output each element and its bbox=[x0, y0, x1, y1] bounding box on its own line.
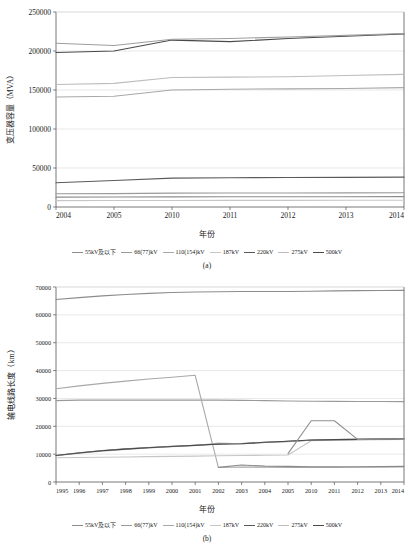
legend-item: 66(77)kV bbox=[121, 521, 157, 529]
plot-area-b: 输电线路长度（km） 01000020000300004000050000600… bbox=[0, 275, 414, 515]
legend-item: 187kV bbox=[210, 521, 239, 529]
legend-item: 275kV bbox=[278, 248, 307, 256]
svg-text:0: 0 bbox=[47, 203, 51, 212]
svg-text:60000: 60000 bbox=[36, 311, 51, 318]
svg-text:2005: 2005 bbox=[107, 211, 122, 220]
legend-line-icon bbox=[210, 252, 221, 253]
caption-a: (a) bbox=[0, 261, 414, 270]
legend-line-icon bbox=[72, 252, 83, 253]
figure-panel-a: 变压器容量（MVA） 05000010000015000020000025000… bbox=[0, 0, 414, 275]
legend-item: 500kV bbox=[313, 248, 342, 256]
legend-label: 275kV bbox=[291, 521, 307, 529]
legend-label: 66(77)kV bbox=[134, 521, 157, 529]
legend-label: 500kV bbox=[326, 521, 342, 529]
legend-line-icon bbox=[244, 252, 255, 253]
legend-label: 110(154)kV bbox=[176, 248, 205, 256]
legend-item: 110(154)kV bbox=[163, 248, 205, 256]
svg-text:2012: 2012 bbox=[281, 211, 296, 220]
svg-text:2002: 2002 bbox=[212, 487, 224, 494]
svg-text:100000: 100000 bbox=[29, 125, 52, 134]
svg-text:50000: 50000 bbox=[36, 339, 51, 346]
svg-text:2013: 2013 bbox=[375, 487, 387, 494]
svg-text:250000: 250000 bbox=[29, 8, 52, 17]
legend-line-icon bbox=[121, 252, 132, 253]
x-axis-label-b: 年份 bbox=[0, 503, 414, 514]
legend-label: 187kV bbox=[223, 248, 239, 256]
svg-text:2013: 2013 bbox=[339, 211, 354, 220]
svg-text:1996: 1996 bbox=[73, 487, 85, 494]
caption-b: (b) bbox=[0, 534, 414, 543]
svg-text:50000: 50000 bbox=[32, 164, 51, 173]
svg-text:2005: 2005 bbox=[282, 487, 294, 494]
legend-label: 55kV及以下 bbox=[85, 248, 116, 256]
plot-area-a: 变压器容量（MVA） 05000010000015000020000025000… bbox=[0, 0, 414, 240]
svg-text:2011: 2011 bbox=[328, 487, 340, 494]
legend-label: 220kV bbox=[257, 521, 273, 529]
legend-line-icon bbox=[244, 525, 255, 526]
legend-item: 110(154)kV bbox=[163, 521, 205, 529]
svg-text:2000: 2000 bbox=[166, 487, 178, 494]
legend-line-icon bbox=[72, 525, 83, 526]
svg-text:2014: 2014 bbox=[389, 211, 404, 220]
chart-svg-a: 0500001000001500002000002500002004200520… bbox=[0, 0, 414, 244]
figure-panel-b: 输电线路长度（km） 01000020000300004000050000600… bbox=[0, 275, 414, 550]
svg-text:2003: 2003 bbox=[235, 487, 247, 494]
legend-label: 66(77)kV bbox=[134, 248, 157, 256]
legend-item: 66(77)kV bbox=[121, 248, 157, 256]
legend-label: 55kV及以下 bbox=[85, 521, 116, 529]
svg-text:2011: 2011 bbox=[223, 211, 238, 220]
svg-text:2010: 2010 bbox=[165, 211, 180, 220]
legend-item: 55kV及以下 bbox=[72, 248, 116, 256]
svg-text:1998: 1998 bbox=[119, 487, 131, 494]
legend-line-icon bbox=[121, 525, 132, 526]
legend-item: 220kV bbox=[244, 521, 273, 529]
svg-text:2004: 2004 bbox=[56, 211, 71, 220]
svg-text:1999: 1999 bbox=[143, 487, 155, 494]
svg-text:200000: 200000 bbox=[29, 47, 52, 56]
svg-text:2014: 2014 bbox=[392, 487, 404, 494]
svg-text:20000: 20000 bbox=[36, 423, 51, 430]
legend-b: 55kV及以下66(77)kV110(154)kV187kV220kV275kV… bbox=[0, 521, 414, 529]
legend-item: 500kV bbox=[313, 521, 342, 529]
svg-text:30000: 30000 bbox=[36, 395, 51, 402]
legend-a: 55kV及以下66(77)kV110(154)kV187kV220kV275kV… bbox=[0, 248, 414, 256]
legend-line-icon bbox=[163, 525, 174, 526]
legend-line-icon bbox=[313, 525, 324, 526]
svg-text:1995: 1995 bbox=[56, 487, 68, 494]
legend-label: 110(154)kV bbox=[176, 521, 205, 529]
legend-item: 55kV及以下 bbox=[72, 521, 116, 529]
x-axis-label-a: 年份 bbox=[0, 228, 414, 239]
svg-text:70000: 70000 bbox=[36, 284, 51, 291]
svg-text:10000: 10000 bbox=[36, 451, 51, 458]
svg-text:40000: 40000 bbox=[36, 367, 51, 374]
legend-line-icon bbox=[278, 525, 289, 526]
legend-label: 275kV bbox=[291, 248, 307, 256]
legend-item: 187kV bbox=[210, 248, 239, 256]
svg-text:2004: 2004 bbox=[259, 487, 271, 494]
svg-text:2001: 2001 bbox=[189, 487, 201, 494]
chart-svg-b: 0100002000030000400005000060000700001995… bbox=[0, 275, 414, 519]
legend-item: 275kV bbox=[278, 521, 307, 529]
svg-text:2010: 2010 bbox=[305, 487, 317, 494]
svg-text:2012: 2012 bbox=[351, 487, 363, 494]
legend-line-icon bbox=[313, 252, 324, 253]
legend-line-icon bbox=[210, 525, 221, 526]
legend-line-icon bbox=[278, 252, 289, 253]
svg-text:1997: 1997 bbox=[96, 487, 108, 494]
legend-label: 220kV bbox=[257, 248, 273, 256]
legend-line-icon bbox=[163, 252, 174, 253]
svg-text:0: 0 bbox=[48, 479, 51, 486]
legend-label: 187kV bbox=[223, 521, 239, 529]
legend-label: 500kV bbox=[326, 248, 342, 256]
svg-text:150000: 150000 bbox=[29, 86, 52, 95]
legend-item: 220kV bbox=[244, 248, 273, 256]
